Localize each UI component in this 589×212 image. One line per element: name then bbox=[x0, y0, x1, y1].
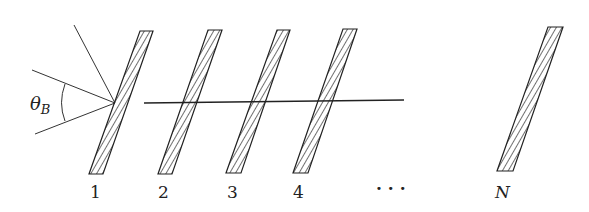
incident-rays bbox=[32, 25, 115, 134]
ellipsis-label: · · · bbox=[376, 180, 406, 197]
plate-1 bbox=[89, 31, 153, 174]
plate-n bbox=[497, 27, 563, 171]
plate-label-4: 4 bbox=[293, 184, 304, 201]
diagram-graphics bbox=[0, 0, 589, 212]
brewster-plate-stack-diagram: θB 1 2 3 4 · · · N bbox=[0, 0, 589, 212]
plates bbox=[89, 27, 563, 174]
plate-label-3: 3 bbox=[227, 184, 238, 201]
plate-label-1: 1 bbox=[90, 184, 101, 201]
plate-label-n: N bbox=[495, 184, 510, 201]
plate-label-2: 2 bbox=[158, 184, 169, 201]
brewster-angle-label: θB bbox=[30, 93, 50, 117]
